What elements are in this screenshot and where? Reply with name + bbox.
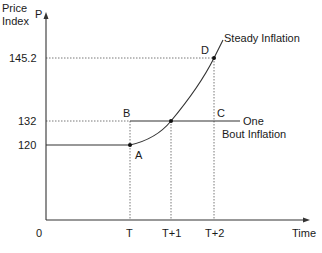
y-tick-120: 120	[18, 139, 36, 151]
y-axis-title-line2: Index	[2, 15, 29, 27]
point-label-C: C	[217, 107, 225, 119]
point-intersection	[169, 119, 173, 123]
one-bout-label-line1: One	[243, 115, 264, 127]
x-tick-T: T	[126, 227, 133, 239]
y-tick-132: 132	[18, 115, 36, 127]
guide-lines	[46, 58, 214, 220]
point-label-B: B	[123, 107, 130, 119]
steady-inflation-curve	[130, 40, 223, 145]
x-tick-T1: T+1	[162, 227, 181, 239]
point-label-A: A	[135, 149, 142, 161]
steady-inflation-label: Steady Inflation	[224, 32, 300, 44]
y-axis-title-line1: Price	[2, 2, 27, 14]
origin-label: 0	[36, 227, 42, 239]
axes	[46, 16, 306, 220]
x-axis-title: Time	[292, 227, 316, 239]
y-tick-145-2: 145.2	[9, 52, 37, 64]
y-axis-symbol: P	[35, 8, 42, 20]
one-bout-label-line2: Bout Inflation	[222, 128, 286, 140]
point-A	[128, 143, 132, 147]
y-axis-arrow-icon	[44, 12, 49, 19]
point-D	[212, 56, 216, 60]
x-tick-T2: T+2	[205, 227, 224, 239]
x-axis-arrow-icon	[303, 218, 310, 223]
point-label-D: D	[201, 44, 209, 56]
